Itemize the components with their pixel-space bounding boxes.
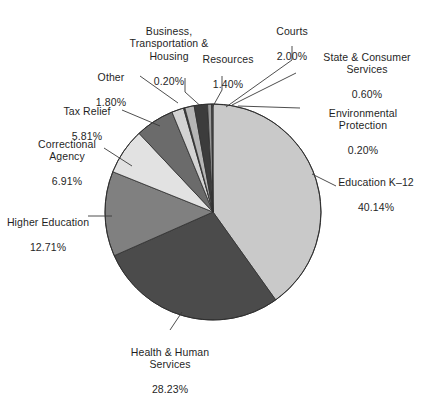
slice-label-name: Higher Education <box>6 216 90 229</box>
slice-label-name: Courts <box>262 25 322 38</box>
slice-label-health-human-services: Health & Human Services 28.23% <box>112 333 228 397</box>
slice-label-name: Resources <box>196 53 260 66</box>
leader-line-health-human-services <box>170 312 182 330</box>
slice-label-value: 12.71% <box>6 241 90 254</box>
slice-label-name: Tax Relief <box>52 105 122 118</box>
slice-label-name: Other <box>82 71 140 84</box>
slice-label-name: Environmental Protection <box>310 107 416 132</box>
pie-slice-group <box>105 104 321 320</box>
slice-label-value: 40.14% <box>330 201 422 214</box>
leader-line-environmental-protection <box>238 106 300 108</box>
slice-label-name: Health & Human Services <box>112 346 228 371</box>
slice-label-name: Education K–12 <box>330 176 422 189</box>
slice-label-value: 28.23% <box>112 383 228 396</box>
slice-label-correctional-agency: Correctional Agency 6.91% <box>28 125 106 201</box>
slice-label-name: Correctional Agency <box>28 138 106 163</box>
slice-label-value: 6.91% <box>28 175 106 188</box>
slice-label-resources: Resources 1.40% <box>196 40 260 103</box>
slice-label-value: 1.40% <box>196 78 260 91</box>
slice-label-name: State & Consumer Services <box>312 51 422 76</box>
slice-label-value: 0.20% <box>310 144 416 157</box>
slice-label-environmental-protection: Environmental Protection 0.20% <box>310 94 416 170</box>
slice-label-education-k12: Education K–12 40.14% <box>330 163 422 226</box>
slice-label-higher-education: Higher Education 12.71% <box>6 203 90 266</box>
